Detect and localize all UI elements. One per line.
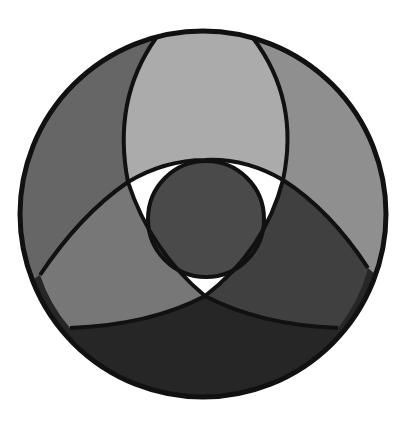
circle-venn-diagram: [0, 0, 405, 422]
center-circle: [148, 161, 264, 277]
top-lens: [124, 0, 288, 182]
